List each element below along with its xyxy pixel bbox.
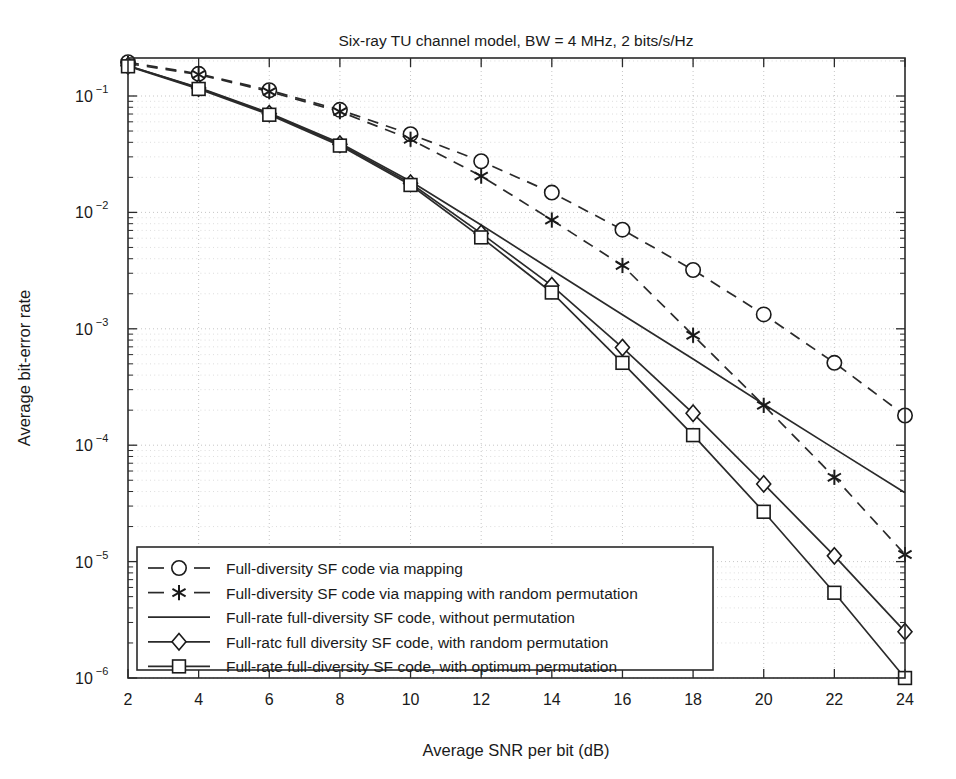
y-tick-label: 10−2 — [75, 199, 108, 221]
x-tick-label: 14 — [543, 691, 561, 708]
x-tick-label: 2 — [124, 691, 133, 708]
legend-label: Full-ratc full diversity SF code, with r… — [226, 634, 608, 651]
marker-circle — [686, 263, 700, 277]
marker-circle — [545, 185, 559, 199]
x-tick-label: 22 — [825, 691, 843, 708]
y-tick-label: 10−3 — [75, 316, 108, 338]
y-axis-tick-labels: 10−110−210−310−410−510−6 — [75, 83, 108, 687]
legend-label: Full-diversity SF code via mapping with … — [226, 585, 638, 602]
marker-square — [192, 83, 205, 96]
marker-circle — [757, 307, 771, 321]
y-tick-exponent: −3 — [96, 316, 109, 328]
figure-container: 24681012141618202224 10−110−210−310−410−… — [0, 0, 956, 779]
y-tick-base: 10 — [75, 321, 93, 338]
x-tick-label: 6 — [265, 691, 274, 708]
x-tick-label: 18 — [684, 691, 702, 708]
y-tick-label: 10−4 — [75, 432, 108, 454]
x-tick-label: 4 — [194, 691, 203, 708]
x-tick-label: 10 — [402, 691, 420, 708]
y-tick-label: 10−1 — [75, 83, 108, 105]
y-tick-base: 10 — [75, 670, 93, 687]
legend-label: Full-rate full-diversity SF code, withou… — [226, 609, 575, 626]
marker-square — [757, 505, 770, 518]
bit-error-rate-plot: 24681012141618202224 10−110−210−310−410−… — [0, 0, 956, 779]
x-tick-label: 20 — [755, 691, 773, 708]
marker-circle — [827, 356, 841, 370]
legend: Full-diversity SF code via mappingFull-d… — [137, 547, 713, 675]
y-tick-base: 10 — [75, 437, 93, 454]
marker-square — [616, 356, 629, 369]
marker-circle — [474, 154, 488, 168]
y-tick-base: 10 — [75, 88, 93, 105]
marker-square — [687, 429, 700, 442]
marker-circle — [615, 223, 629, 237]
x-axis-tick-labels: 24681012141618202224 — [124, 691, 914, 708]
y-tick-base: 10 — [75, 554, 93, 571]
x-tick-label: 12 — [472, 691, 490, 708]
y-tick-exponent: −2 — [96, 199, 109, 211]
marker-square — [475, 231, 488, 244]
legend-label: Full-diversity SF code via mapping — [226, 560, 463, 577]
chart-title: Six-ray TU channel model, BW = 4 MHz, 2 … — [338, 32, 693, 49]
x-axis-label: Average SNR per bit (dB) — [423, 741, 610, 759]
y-tick-label: 10−5 — [75, 549, 108, 571]
y-tick-exponent: −5 — [96, 549, 109, 561]
legend-label: Full-rate full-diversity SF code, with o… — [226, 658, 617, 675]
marker-square — [828, 586, 841, 599]
x-tick-label: 16 — [614, 691, 632, 708]
x-tick-label: 24 — [896, 691, 914, 708]
marker-square — [404, 179, 417, 192]
y-axis-label: Average bit-error rate — [15, 290, 33, 447]
y-tick-base: 10 — [75, 204, 93, 221]
marker-square — [334, 139, 347, 152]
marker-circle — [172, 561, 186, 575]
x-tick-label: 8 — [335, 691, 344, 708]
y-tick-exponent: −4 — [96, 432, 109, 444]
marker-square — [173, 660, 186, 673]
marker-square — [263, 108, 276, 121]
y-tick-exponent: −1 — [96, 83, 109, 95]
y-tick-label: 10−6 — [75, 665, 108, 687]
y-tick-exponent: −6 — [96, 665, 109, 677]
marker-square — [545, 286, 558, 299]
